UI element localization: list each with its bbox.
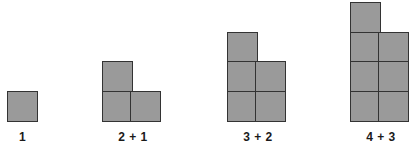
unit-square [350,91,381,122]
figure-caption: 1 [0,130,45,144]
unit-square [350,61,381,92]
figure-group [227,0,289,122]
unit-square [350,32,381,63]
unit-square [255,61,286,92]
square-column [350,0,381,122]
square-column [102,60,133,122]
unit-square [227,91,258,122]
unit-square [227,61,258,92]
square-column [7,91,38,122]
unit-square [102,91,133,122]
figure-caption: 4 + 3 [343,130,412,144]
figure-group [350,0,412,122]
figure-group [102,0,164,122]
unit-square [378,91,409,122]
diagram-canvas: 12 + 13 + 24 + 3 [0,0,412,148]
unit-square [255,91,286,122]
unit-square [350,2,381,33]
square-column [257,60,287,122]
unit-square [378,61,409,92]
unit-square [130,91,161,122]
square-column [132,91,162,122]
unit-square [7,91,38,122]
figure-group [7,0,38,122]
figure-caption: 3 + 2 [220,130,296,144]
unit-square [378,32,409,63]
square-column [227,29,258,122]
square-column [380,29,410,122]
unit-square [102,61,133,92]
unit-square [227,32,258,63]
figure-caption: 2 + 1 [95,130,171,144]
